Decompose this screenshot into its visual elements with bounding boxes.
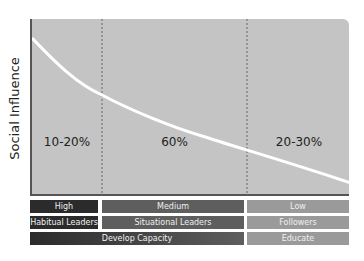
y-axis-label-text: Social Influence xyxy=(7,57,22,160)
segment-label-low: 20-30% xyxy=(247,135,351,149)
bar-influence-high: High xyxy=(30,200,98,213)
bar-influence-medium: Medium xyxy=(102,200,244,213)
influence-curve xyxy=(32,38,351,183)
bar-action-educate: Educate xyxy=(247,232,349,245)
segment-label-medium: 60% xyxy=(102,135,247,149)
segment-label-high: 10-20% xyxy=(32,135,102,149)
bar-influence-low: Low xyxy=(247,200,349,213)
bar-action-develop-capacity: Develop Capacity xyxy=(30,232,244,245)
plot-area: 10-20% 60% 20-30% xyxy=(30,19,349,196)
bar-role-habitual-leaders: Habitual Leaders xyxy=(30,216,98,229)
bar-role-situational-leaders: Situational Leaders xyxy=(102,216,244,229)
y-axis-label: Social Influence xyxy=(2,20,26,196)
bar-role-followers: Followers xyxy=(247,216,349,229)
curve-graphic xyxy=(32,19,351,196)
